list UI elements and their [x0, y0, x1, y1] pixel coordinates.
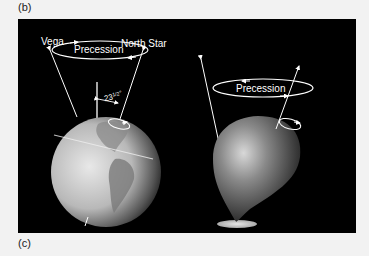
top-spin-arrow-icon — [294, 122, 300, 123]
precession-label-top: Precession — [236, 83, 285, 94]
precession-label-earth: Precession — [74, 44, 123, 55]
vega-label: Vega — [41, 36, 64, 47]
earth-diagram: Vega North Star Precession 231/2° — [41, 36, 167, 227]
figure-label-c: (c) — [18, 237, 31, 249]
precession-illustration-panel: Vega North Star Precession 231/2° — [18, 19, 356, 233]
precession-arrow-icon — [70, 42, 78, 43]
north-star-axis-line — [119, 50, 143, 122]
vega-axis-line — [50, 50, 77, 117]
figure-label-b: (b) — [18, 1, 31, 13]
svg-text:231/2°: 231/2° — [103, 90, 124, 104]
tilt-angle-label: 231/2° — [103, 90, 124, 104]
spinning-top-body — [213, 116, 300, 222]
top-axis-line — [276, 66, 299, 129]
spinning-top-diagram: Precession — [201, 59, 313, 228]
north-star-label: North Star — [121, 38, 167, 49]
